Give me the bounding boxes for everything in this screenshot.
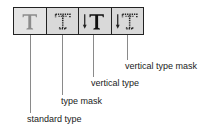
type-icon <box>14 8 46 34</box>
vertical-type-icon <box>79 8 111 34</box>
type-mask-label: type mask <box>61 96 102 106</box>
type-tool-toolbar <box>13 7 144 35</box>
vertical-type-mask-label: vertical type mask <box>125 61 197 71</box>
standard-type-leader-line <box>30 35 31 113</box>
type-mask-icon <box>47 8 79 34</box>
standard-type-tool-button[interactable] <box>14 8 47 34</box>
type-mask-leader-line <box>62 35 63 95</box>
standard-type-label: standard type <box>27 114 82 124</box>
vertical-type-leader-line <box>93 35 94 77</box>
vertical-type-mask-icon <box>112 8 144 34</box>
vertical-type-label: vertical type <box>91 78 139 88</box>
vertical-type-mask-leader-line <box>127 35 128 60</box>
type-mask-tool-button[interactable] <box>47 8 80 34</box>
vertical-type-mask-tool-button[interactable] <box>112 8 144 34</box>
vertical-type-tool-button[interactable] <box>79 8 112 34</box>
